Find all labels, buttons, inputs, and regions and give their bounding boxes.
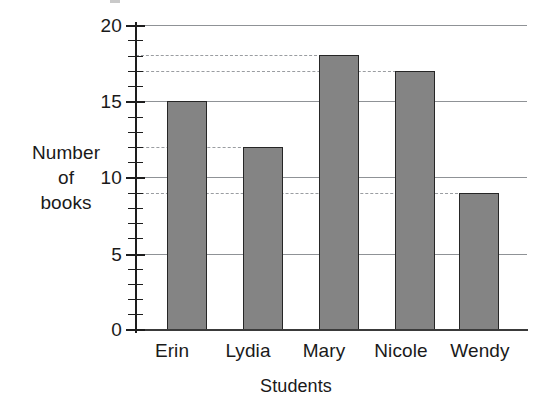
y-tick-4 [128,269,143,270]
bar-wendy [459,193,499,331]
y-tick-13 [128,132,143,133]
y-tick-label-5: 5 [82,245,122,264]
x-tick-label-mary: Mary [288,340,360,361]
bar-lydia [243,147,283,331]
y-tick-2 [128,299,143,300]
y-tick-label-15: 15 [82,92,122,111]
x-tick-label-lydia: Lydia [212,340,284,361]
bar-erin [167,101,207,331]
y-axis-title-line-3: books [12,190,120,215]
x-tick-label-erin: Erin [137,340,207,361]
y-tick-5 [126,254,145,256]
y-tick-8 [128,208,143,209]
y-tick-18 [128,56,143,57]
y-tick-16 [128,86,143,87]
y-tick-11 [128,162,143,163]
x-tick-label-nicole: Nicole [360,340,442,361]
x-axis-line [135,329,528,331]
plot-area [136,25,527,330]
bar-mary [319,55,359,331]
x-tick-label-wendy: Wendy [440,340,520,361]
y-tick-12 [128,147,143,148]
scan-artifact [110,0,120,3]
y-tick-20 [126,25,145,27]
y-tick-14 [128,117,143,118]
y-tick-7 [128,223,143,224]
y-tick-label-20: 20 [82,16,122,35]
y-tick-15 [126,101,145,103]
gridline-20 [136,25,527,26]
y-tick-label-0: 0 [82,320,122,339]
y-tick-label-10: 10 [82,168,122,187]
y-tick-1 [128,314,143,315]
bar-chart-figure: Number of books 20 15 [0,0,546,412]
y-tick-6 [128,238,143,239]
y-tick-3 [128,284,143,285]
y-tick-10 [126,177,145,179]
y-tick-0 [126,329,145,331]
y-tick-19 [128,40,143,41]
bar-nicole [395,71,435,331]
y-tick-17 [128,71,143,72]
reference-line-18 [136,55,322,56]
y-axis-title-line-1: Number [12,140,120,165]
x-axis-title: Students [236,376,356,397]
y-tick-9 [128,193,143,194]
